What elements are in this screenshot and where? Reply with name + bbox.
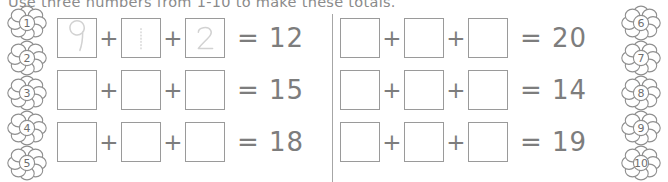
row-total: = 19 [520,129,587,155]
answer-box[interactable] [404,18,444,58]
flower-number: 4 [24,122,31,135]
plus-operator: + [380,79,404,102]
flower-number: 10 [634,157,648,170]
answer-box[interactable] [404,70,444,110]
answer-box[interactable] [121,70,161,110]
answer-box[interactable] [468,70,508,110]
answer-box[interactable] [121,122,161,162]
plus-operator: + [444,27,468,50]
plus-operator: + [444,79,468,102]
problem-row: ++= 19 [340,120,618,164]
traced-digit-1 [122,19,160,57]
flower-number: 8 [638,87,645,100]
flower-number: 9 [638,122,645,135]
worksheet-page: Use three numbers from 1-10 to make thes… [0,0,668,182]
flower-icon-8: 8 [618,74,664,112]
flower-icon-1: 1 [4,4,50,42]
traced-digit-2 [186,19,224,57]
plus-operator: + [97,131,121,154]
plus-operator: + [161,27,185,50]
plus-operator: + [444,131,468,154]
answer-box[interactable] [57,70,97,110]
answer-box[interactable] [340,18,380,58]
flower-number: 6 [638,17,645,30]
problem-column-right: ++= 20++= 14++= 19 [340,0,618,182]
flower-icon-3: 3 [4,74,50,112]
plus-operator: + [380,27,404,50]
problem-row: ++= 15 [57,68,335,112]
row-total: = 15 [237,77,304,103]
row-total: = 14 [520,77,587,103]
answer-box[interactable] [468,18,508,58]
row-total: = 20 [520,25,587,51]
problem-row: ++= 18 [57,120,335,164]
plus-operator: + [380,131,404,154]
answer-box[interactable] [57,122,97,162]
flower-icon-10: 10 [618,144,664,182]
problem-row: ++= 12 [57,16,335,60]
answer-box[interactable] [57,18,97,58]
answer-box[interactable] [185,70,225,110]
flower-number: 7 [638,52,645,65]
answer-box[interactable] [404,122,444,162]
flower-icon-4: 4 [4,109,50,147]
flower-icon-5: 5 [4,144,50,182]
answer-box[interactable] [185,18,225,58]
traced-digit-9 [58,19,96,57]
plus-operator: + [161,79,185,102]
flower-icon-2: 2 [4,39,50,77]
row-total: = 18 [237,129,304,155]
flower-icon-9: 9 [618,109,664,147]
answer-box[interactable] [468,122,508,162]
flower-number: 1 [24,17,31,30]
answer-box[interactable] [340,122,380,162]
answer-box[interactable] [121,18,161,58]
flower-icon-6: 6 [618,4,664,42]
plus-operator: + [97,27,121,50]
plus-operator: + [97,79,121,102]
plus-operator: + [161,131,185,154]
flower-icon-7: 7 [618,39,664,77]
row-total: = 12 [237,25,304,51]
problem-row: ++= 14 [340,68,618,112]
problem-row: ++= 20 [340,16,618,60]
problem-column-left: ++= 12++= 15++= 18 [57,0,335,182]
flower-number: 2 [24,52,31,65]
answer-box[interactable] [340,70,380,110]
flower-column-right: 678910 [614,0,668,182]
flower-number: 5 [24,157,31,170]
answer-box[interactable] [185,122,225,162]
flower-number: 3 [24,87,31,100]
flower-column-left: 12345 [0,0,54,182]
